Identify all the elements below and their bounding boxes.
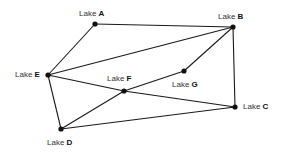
- edge-e-d: [48, 75, 61, 129]
- node-lake-d: [58, 126, 63, 131]
- label-letter: G: [192, 80, 198, 89]
- label-lake-f: Lake F: [107, 74, 131, 84]
- label-lake-g: Lake G: [172, 80, 198, 90]
- label-lake-c: Lake C: [243, 102, 268, 112]
- label-lake-d: Lake D: [47, 138, 72, 148]
- label-letter: D: [67, 138, 73, 147]
- label-prefix: Lake: [218, 12, 238, 21]
- node-lake-b: [230, 24, 235, 29]
- label-letter: C: [263, 102, 269, 111]
- label-letter: B: [238, 12, 244, 21]
- node-lake-a: [92, 21, 97, 26]
- label-prefix: Lake: [15, 70, 35, 79]
- node-lake-e: [45, 72, 50, 77]
- label-letter: A: [99, 9, 105, 18]
- label-lake-e: Lake E: [15, 70, 40, 80]
- label-prefix: Lake: [47, 138, 67, 147]
- edge-f-d: [61, 91, 124, 129]
- edge-b-c: [233, 27, 235, 107]
- label-letter: E: [35, 70, 40, 79]
- edge-e-b: [48, 27, 233, 75]
- label-prefix: Lake: [79, 9, 99, 18]
- edge-f-c: [124, 91, 235, 107]
- label-prefix: Lake: [243, 102, 263, 111]
- node-lake-f: [121, 88, 126, 93]
- label-prefix: Lake: [107, 74, 127, 83]
- label-letter: F: [127, 74, 132, 83]
- label-lake-a: Lake A: [79, 9, 104, 19]
- edge-a-b: [95, 24, 233, 27]
- edge-a-e: [48, 24, 95, 75]
- label-lake-b: Lake B: [218, 12, 243, 22]
- edge-d-c: [61, 107, 235, 129]
- label-prefix: Lake: [172, 80, 192, 89]
- lake-network-diagram: [0, 0, 281, 158]
- node-lake-c: [232, 104, 237, 109]
- node-lake-g: [181, 68, 186, 73]
